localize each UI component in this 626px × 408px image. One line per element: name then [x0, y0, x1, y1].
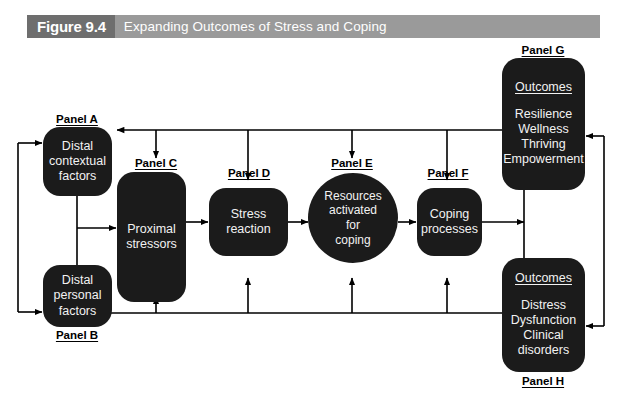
caption-panel-d: Panel D: [198, 167, 300, 179]
panel-g-line-4: Empowerment: [503, 152, 584, 167]
panel-b-line-1: Distal: [62, 273, 93, 288]
panel-d-line-1: Stress: [231, 207, 266, 222]
panel-c-line-1: Proximal: [127, 222, 176, 237]
caption-panel-a: Panel A: [26, 113, 128, 125]
panel-h-line-2: Dysfunction: [511, 313, 576, 328]
panel-h-line-1: Distress: [521, 298, 566, 313]
panel-g-heading: Outcomes: [515, 80, 572, 95]
figure-title: Expanding Outcomes of Stress and Coping: [115, 15, 387, 38]
panel-d-node: Stress reaction: [209, 188, 288, 256]
caption-panel-f: Panel F: [397, 167, 499, 179]
caption-panel-h: Panel H: [500, 375, 586, 387]
panel-e-line-3: for: [346, 218, 360, 233]
panel-e-line-4: coping: [335, 233, 370, 248]
panel-e-line-1: Resources: [324, 189, 381, 204]
panel-d-line-2: reaction: [226, 222, 270, 237]
figure-number-block: Figure 9.4: [27, 15, 115, 38]
panel-f-line-2: processes: [421, 222, 478, 237]
panel-f-node: Coping processes: [417, 188, 482, 256]
panel-f-line-1: Coping: [430, 207, 470, 222]
panel-a-node: Distal contextual factors: [43, 127, 112, 196]
panel-h-line-4: disorders: [518, 343, 569, 358]
panel-g-line-3: Thriving: [521, 137, 565, 152]
caption-panel-c: Panel C: [105, 157, 207, 169]
panel-a-line-1: Distal: [62, 139, 93, 154]
panel-b-node: Distal personal factors: [43, 265, 112, 327]
caption-panel-e: Panel E: [301, 157, 403, 169]
panel-b-line-3: factors: [59, 304, 97, 319]
panel-b-line-2: personal: [54, 288, 102, 303]
panel-h-heading: Outcomes: [515, 271, 572, 286]
panel-c-node: Proximal stressors: [117, 172, 186, 302]
panel-c-line-2: stressors: [126, 237, 177, 252]
panel-g-node: Outcomes Resilience Wellness Thriving Em…: [502, 58, 585, 190]
panel-h-node: Outcomes Distress Dysfunction Clinical d…: [502, 258, 585, 372]
panel-a-line-2: contextual: [49, 154, 106, 169]
figure-title-bar: Figure 9.4 Expanding Outcomes of Stress …: [27, 15, 600, 38]
panel-e-line-2: activated: [329, 203, 377, 218]
panel-e-node: Resources activated for coping: [308, 173, 398, 263]
caption-panel-b: Panel B: [26, 329, 128, 341]
figure-container: Figure 9.4 Expanding Outcomes of Stress …: [0, 0, 626, 408]
panel-a-line-3: factors: [59, 169, 97, 184]
panel-h-line-3: Clinical: [523, 328, 563, 343]
caption-panel-g: Panel G: [500, 44, 586, 56]
figure-number: Figure 9.4: [37, 19, 106, 34]
panel-g-line-1: Resilience: [515, 107, 573, 122]
panel-g-line-2: Wellness: [518, 122, 568, 137]
